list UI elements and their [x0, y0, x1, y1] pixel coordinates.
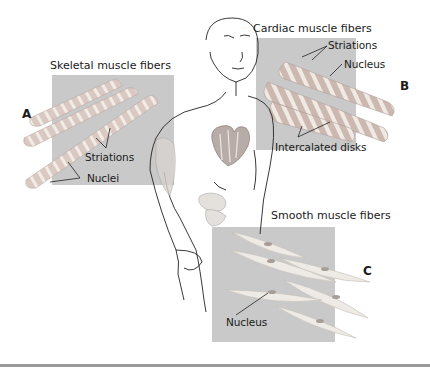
intestine-illustration [199, 193, 226, 226]
smooth-label-nucleus: Nucleus [226, 316, 267, 328]
bottom-divider [0, 364, 430, 367]
smooth-title: Smooth muscle fibers [271, 209, 391, 222]
muscle-types-diagram: A Skeletal muscle fibers Striations Nucl… [0, 0, 430, 369]
cardiac-label-striations: Striations [328, 39, 377, 51]
cardiac-label-intercalated-disks: Intercalated disks [275, 141, 366, 153]
panel-letter-b: B [400, 79, 409, 93]
illustration-layer [0, 0, 430, 369]
heart-illustration [212, 126, 250, 166]
arm-muscle-illustration [156, 138, 175, 196]
cardiac-label-nucleus: Nucleus [344, 58, 385, 70]
skeletal-label-nuclei: Nuclei [87, 172, 119, 184]
panel-letter-a: A [22, 107, 31, 121]
skeletal-label-striations: Striations [85, 151, 134, 163]
cardiac-title: Cardiac muscle fibers [253, 22, 372, 35]
skeletal-title: Skeletal muscle fibers [50, 59, 171, 72]
panel-letter-c: C [363, 264, 372, 278]
